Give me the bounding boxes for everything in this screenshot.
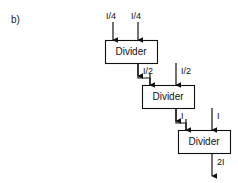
signal-label-in-1b: I/4 xyxy=(131,12,141,21)
divider-1-label: Divider xyxy=(105,47,157,57)
panel-label: b) xyxy=(11,15,20,25)
signal-label-out-3: 2I xyxy=(217,158,225,167)
circuit-diagram-svg xyxy=(0,0,238,183)
divider-3-label: Divider xyxy=(178,137,230,147)
signal-label-in-1a: I/4 xyxy=(106,12,116,21)
signal-label-out-1: I/2 xyxy=(143,67,153,76)
signal-label-in-2b: I/2 xyxy=(181,67,191,76)
divider-2-label: Divider xyxy=(142,92,194,102)
figure-canvas: b) Divider Divider Divider I/4 I/4 I/2 I… xyxy=(0,0,238,183)
signal-label-out-2: I xyxy=(181,112,184,121)
signal-label-in-3b: I xyxy=(217,112,220,121)
